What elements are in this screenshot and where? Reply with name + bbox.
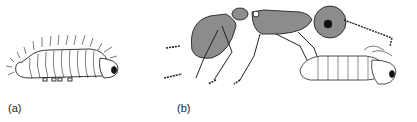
ant-b [164,6,396,84]
panel-label-a: (a) [8,102,21,114]
larva-a [6,35,118,81]
figure: (a) (b) [0,0,417,122]
panel-label-b: (b) [177,102,190,114]
illustration [0,0,417,122]
